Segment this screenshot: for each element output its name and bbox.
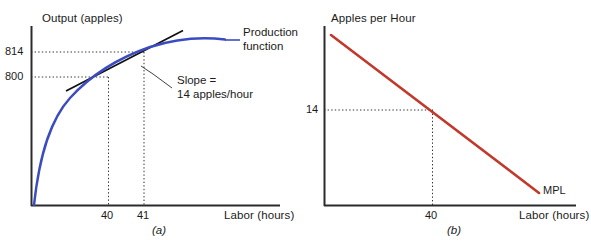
panel-b-label: (b) [447,224,461,238]
mpl-line [331,35,539,193]
slope-annotation-leader [141,66,172,88]
panel-b-graphics [324,26,576,206]
panel-a-y-axis-title: Output (apples) [42,12,123,26]
production-function-label-line1: Production [243,26,298,40]
panel-a-label: (a) [152,224,166,238]
panel-b-x-axis-title: Labor (hours) [519,209,589,223]
production-function-curve [34,38,225,205]
panel-a-x-axis-title: Labor (hours) [224,209,294,223]
panel-b-y-tick-14: 14 [306,103,318,116]
slope-annotation-line2: 14 apples/hour [177,88,253,102]
production-function-label-line2: function [243,40,283,54]
slope-annotation-line1: Slope = [177,74,216,88]
figure-container: Output (apples) 814 800 40 41 Labor (hou… [0,0,591,245]
mpl-curve-label: MPL [543,184,566,197]
panel-a-y-tick-814: 814 [5,45,23,58]
panel-b-x-tick-40: 40 [425,209,437,222]
panel-a-x-tick-40: 40 [101,209,113,222]
tangent-line [66,31,183,92]
panel-b-y-axis-title: Apples per Hour [331,12,416,26]
panel-a-y-tick-800: 800 [5,70,23,83]
panel-a-x-tick-41: 41 [137,209,149,222]
